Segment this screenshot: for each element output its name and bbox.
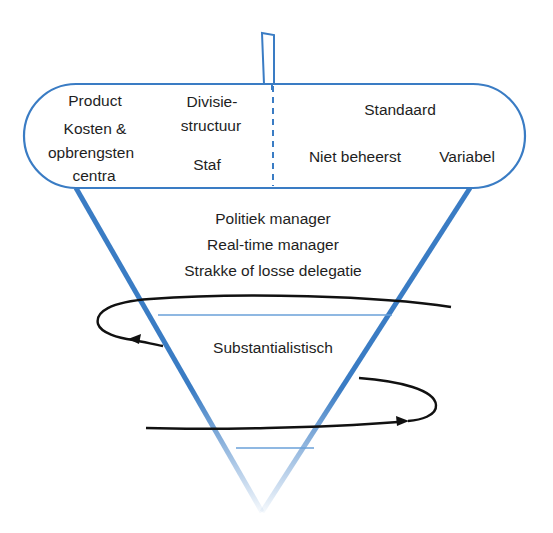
label-structuur: structuur (181, 117, 241, 134)
label-substantialistisch: Substantialistisch (213, 339, 333, 356)
stem-handle (262, 33, 274, 84)
label-product: Product (68, 92, 122, 109)
label-standaard: Standaard (364, 101, 436, 118)
label-centra: centra (72, 167, 115, 184)
label-staf: Staf (193, 156, 221, 173)
label-real-time-manager: Real-time manager (207, 236, 339, 253)
label-niet-beheerst: Niet beheerst (309, 148, 402, 165)
label-politiek-manager: Politiek manager (215, 210, 330, 227)
label-delegatie: Strakke of losse delegatie (184, 262, 362, 279)
label-opbrengsten: opbrengsten (48, 144, 134, 161)
label-variabel: Variabel (439, 148, 495, 165)
label-divisie: Divisie- (187, 93, 238, 110)
label-kosten: Kosten & (64, 120, 128, 137)
spinning-top-diagram: Product Kosten & opbrengsten centra Divi… (0, 0, 553, 533)
